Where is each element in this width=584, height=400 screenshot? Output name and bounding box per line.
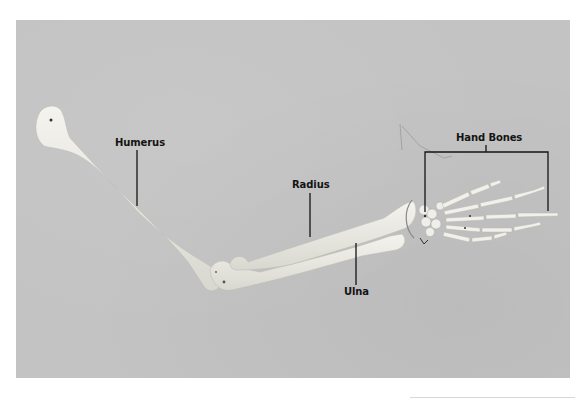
- radius-label: Radius: [292, 179, 330, 190]
- arm-skeleton-illustration: [0, 0, 584, 400]
- ulna-label: Ulna: [344, 286, 369, 297]
- hand-bones-label: Hand Bones: [456, 132, 522, 143]
- hand-finger-bones: [442, 180, 558, 242]
- page-rule: [410, 397, 575, 398]
- humerus-bone: [36, 106, 222, 291]
- humerus-label: Humerus: [115, 137, 165, 148]
- wire-strand: [400, 124, 452, 158]
